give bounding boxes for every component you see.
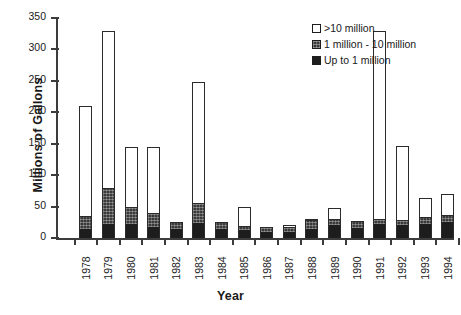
y-tick-label-350: 350 bbox=[16, 10, 46, 22]
bar-segment-1987-0 bbox=[283, 232, 296, 238]
y-tick-150: 150 bbox=[51, 143, 59, 145]
x-tick-label-text: 1993 bbox=[419, 256, 431, 279]
x-tick-label-1989: 1989 bbox=[328, 244, 341, 284]
bar-segment-1993-1 bbox=[419, 217, 432, 225]
x-tick-label-1983: 1983 bbox=[192, 244, 205, 284]
bar-1988[interactable] bbox=[305, 219, 318, 238]
x-axis-tick-labels: 1978197919801981198219831984198519861987… bbox=[56, 244, 454, 286]
x-tick-label-1979: 1979 bbox=[102, 244, 115, 284]
x-tick-label-1984: 1984 bbox=[215, 244, 228, 284]
hatched-square-icon bbox=[312, 40, 321, 49]
x-tick-label-text: 1985 bbox=[238, 256, 250, 279]
x-tick-label-1985: 1985 bbox=[238, 244, 251, 284]
y-tick-50: 50 bbox=[51, 206, 59, 208]
y-tick-350: 350 bbox=[51, 17, 59, 19]
bar-1986[interactable] bbox=[260, 227, 273, 238]
bar-1980[interactable] bbox=[125, 147, 138, 238]
bar-segment-1981-0 bbox=[147, 227, 160, 238]
x-tick-label-1981: 1981 bbox=[147, 244, 160, 284]
bar-segment-1993-0 bbox=[419, 224, 432, 238]
x-tick bbox=[458, 238, 460, 245]
bar-1981[interactable] bbox=[147, 147, 160, 238]
bar-1994[interactable] bbox=[441, 194, 454, 238]
x-tick-label-text: 1979 bbox=[102, 256, 114, 279]
bar-segment-1992-0 bbox=[396, 225, 409, 238]
bar-segment-1993-2 bbox=[419, 198, 432, 216]
white-square-icon bbox=[312, 24, 321, 33]
bar-segment-1986-0 bbox=[260, 232, 273, 238]
bar-segment-1980-1 bbox=[125, 207, 138, 225]
x-tick-label-text: 1990 bbox=[351, 256, 363, 279]
bar-segment-1984-0 bbox=[215, 229, 228, 238]
legend-label: >10 million bbox=[324, 22, 375, 34]
x-tick-label-1994: 1994 bbox=[441, 244, 454, 284]
x-tick-label-1980: 1980 bbox=[125, 244, 138, 284]
x-tick-label-text: 1978 bbox=[80, 256, 92, 279]
y-tick-label-150: 150 bbox=[16, 136, 46, 148]
bar-segment-1992-2 bbox=[396, 146, 409, 220]
bar-segment-1985-0 bbox=[238, 230, 251, 238]
bar-1982[interactable] bbox=[170, 222, 183, 238]
x-tick-label-1990: 1990 bbox=[351, 244, 364, 284]
y-tick-label-0: 0 bbox=[16, 230, 46, 242]
legend-label: 1 million - 10 million bbox=[324, 38, 416, 50]
x-tick-label-text: 1991 bbox=[374, 256, 386, 279]
y-tick-300: 300 bbox=[51, 48, 59, 50]
x-tick-label-text: 1981 bbox=[148, 256, 160, 279]
bar-1984[interactable] bbox=[215, 222, 228, 238]
y-tick-label-200: 200 bbox=[16, 104, 46, 116]
bar-1978[interactable] bbox=[79, 106, 92, 238]
bar-segment-1978-0 bbox=[79, 229, 92, 238]
bar-1993[interactable] bbox=[419, 198, 432, 238]
bar-segment-1981-2 bbox=[147, 147, 160, 213]
y-tick-100: 100 bbox=[51, 174, 59, 176]
bar-1989[interactable] bbox=[328, 208, 341, 238]
bar-segment-1989-0 bbox=[328, 225, 341, 238]
x-tick-label-1992: 1992 bbox=[396, 244, 409, 284]
legend-item-2[interactable]: Up to 1 million bbox=[312, 53, 452, 67]
bar-segment-1982-0 bbox=[170, 229, 183, 238]
x-tick-label-1986: 1986 bbox=[260, 244, 273, 284]
bar-segment-1989-1 bbox=[328, 219, 341, 226]
bar-1992[interactable] bbox=[396, 146, 409, 238]
x-tick-label-text: 1986 bbox=[261, 256, 273, 279]
y-tick-label-50: 50 bbox=[16, 199, 46, 211]
chart-legend: >10 million1 million - 10 millionUp to 1… bbox=[312, 21, 452, 69]
bar-segment-1982-1 bbox=[170, 222, 183, 229]
x-tick-label-1978: 1978 bbox=[79, 244, 92, 284]
bar-segment-1988-0 bbox=[305, 229, 318, 238]
bar-1985[interactable] bbox=[238, 207, 251, 238]
bar-segment-1990-1 bbox=[351, 221, 364, 228]
bar-1990[interactable] bbox=[351, 221, 364, 238]
y-tick-200: 200 bbox=[51, 111, 59, 113]
x-tick-label-1982: 1982 bbox=[170, 244, 183, 284]
bar-segment-1979-1 bbox=[102, 188, 115, 224]
bar-segment-1980-2 bbox=[125, 147, 138, 207]
bar-segment-1990-0 bbox=[351, 228, 364, 238]
bar-segment-1985-2 bbox=[238, 207, 251, 226]
x-tick-label-text: 1988 bbox=[306, 256, 318, 279]
legend-label: Up to 1 million bbox=[324, 54, 391, 66]
bar-segment-1979-0 bbox=[102, 224, 115, 238]
legend-item-0[interactable]: >10 million bbox=[312, 21, 452, 35]
legend-item-1[interactable]: 1 million - 10 million bbox=[312, 37, 452, 51]
x-tick-label-1991: 1991 bbox=[373, 244, 386, 284]
y-tick-0: 0 bbox=[51, 237, 59, 239]
bar-segment-1983-1 bbox=[192, 203, 205, 222]
bar-1983[interactable] bbox=[192, 82, 205, 238]
bar-segment-1984-1 bbox=[215, 222, 228, 229]
bar-chart: Millions of Gallons 05010015020025030035… bbox=[0, 0, 461, 315]
x-tick-label-text: 1984 bbox=[216, 256, 228, 279]
bar-1987[interactable] bbox=[283, 225, 296, 238]
x-tick-label-text: 1994 bbox=[442, 256, 454, 279]
black-square-icon bbox=[312, 56, 321, 65]
x-tick-label-1987: 1987 bbox=[283, 244, 296, 284]
y-tick-label-250: 250 bbox=[16, 73, 46, 85]
x-tick-label-text: 1992 bbox=[396, 256, 408, 279]
bar-segment-1991-0 bbox=[373, 224, 386, 238]
x-axis-title: Year bbox=[0, 289, 461, 303]
bar-1979[interactable] bbox=[102, 31, 115, 238]
x-tick-label-text: 1982 bbox=[170, 256, 182, 279]
bar-segment-1989-2 bbox=[328, 208, 341, 219]
bar-segment-1978-2 bbox=[79, 106, 92, 216]
